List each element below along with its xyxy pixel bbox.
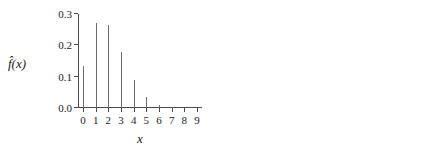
data-stem xyxy=(96,23,97,108)
y-axis-tick-label: 0.3 xyxy=(58,9,72,20)
data-stem xyxy=(108,25,109,108)
x-axis-tick-label: 0 xyxy=(80,115,86,126)
x-axis-tick-label: 1 xyxy=(93,115,99,126)
x-axis-tick-label: 9 xyxy=(194,115,200,126)
x-axis-tick xyxy=(184,108,185,112)
y-axis-tick xyxy=(74,107,78,108)
y-axis-tick-label: 0.2 xyxy=(58,40,72,51)
y-axis-tick-label: 0.1 xyxy=(58,71,72,82)
x-axis-tick xyxy=(96,108,97,112)
x-axis-tick xyxy=(197,108,198,112)
figure-container: f̂(x) 0.00.10.20.3 0123456789 x 01234567… xyxy=(0,0,436,156)
data-stem xyxy=(146,97,147,108)
y-axis-label: f̂(x) xyxy=(8,57,26,70)
data-stem xyxy=(83,66,84,108)
data-stem xyxy=(121,52,122,108)
x-axis-tick xyxy=(108,108,109,112)
x-axis-tick xyxy=(159,108,160,112)
chart-panel-right: 0123456789 x xyxy=(218,0,436,156)
y-axis-tick xyxy=(74,13,78,14)
y-axis-tick xyxy=(74,76,78,77)
y-axis-tick xyxy=(74,44,78,45)
x-axis-tick-label: 6 xyxy=(156,115,162,126)
y-axis-spine xyxy=(78,14,79,108)
x-axis-tick-label: 2 xyxy=(106,115,112,126)
chart-panel-left: f̂(x) 0.00.10.20.3 0123456789 x xyxy=(0,0,218,156)
y-axis-tick-label: 0.0 xyxy=(58,103,72,114)
data-stem xyxy=(159,105,160,108)
data-stem xyxy=(172,107,173,108)
x-axis-tick-label: 8 xyxy=(182,115,188,126)
x-axis-tick xyxy=(172,108,173,112)
x-axis-tick-label: 5 xyxy=(144,115,150,126)
y-axis-tick-labels: 0.00.10.20.3 xyxy=(46,14,72,108)
x-axis-label: x xyxy=(137,132,143,145)
x-axis-tick-label: 3 xyxy=(118,115,124,126)
x-axis-tick xyxy=(146,108,147,112)
plot-area-left xyxy=(78,14,202,108)
x-axis-tick xyxy=(134,108,135,112)
x-axis-tick-label: 4 xyxy=(131,115,137,126)
data-stem xyxy=(134,80,135,108)
x-axis-tick xyxy=(121,108,122,112)
x-axis-tick-label: 7 xyxy=(169,115,175,126)
x-axis-tick xyxy=(83,108,84,112)
